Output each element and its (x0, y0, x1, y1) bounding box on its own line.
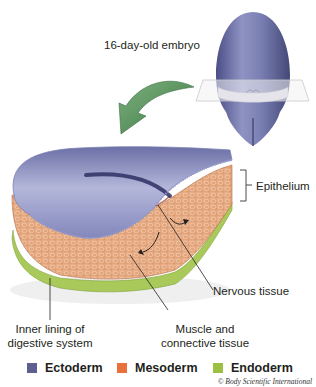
mesoderm-swatch-icon (117, 363, 127, 373)
legend-label: Mesoderm (135, 361, 198, 375)
label-embryo: 16-day-old embryo (104, 38, 200, 52)
label-inner-line1: Inner lining of (0, 322, 100, 336)
legend-label: Ectoderm (45, 361, 103, 375)
label-muscle-line2: connective tissue (150, 336, 260, 350)
label-epithelium: Epithelium (256, 179, 310, 193)
legend-item-mesoderm: Mesoderm (117, 361, 198, 375)
legend: Ectoderm Mesoderm Endoderm (0, 361, 316, 377)
label-muscle-line1: Muscle and (150, 322, 260, 336)
legend-item-endoderm: Endoderm (213, 361, 293, 375)
label-muscle-connective: Muscle and connective tissue (150, 322, 260, 350)
curved-arrow-icon (119, 81, 194, 134)
copyright-credit: © Body Scientific International (218, 377, 312, 386)
label-nervous-tissue: Nervous tissue (213, 284, 289, 298)
embryo-illustration (196, 12, 309, 146)
ectoderm-swatch-icon (27, 363, 37, 373)
legend-item-ectoderm: Ectoderm (27, 361, 103, 375)
embryo-germ-layers-diagram: 16-day-old embryo Epithelium Nervous tis… (0, 0, 316, 387)
legend-label: Endoderm (231, 361, 293, 375)
label-inner-line2: digestive system (0, 336, 100, 350)
label-inner-lining: Inner lining of digestive system (0, 322, 100, 350)
endoderm-swatch-icon (213, 363, 223, 373)
